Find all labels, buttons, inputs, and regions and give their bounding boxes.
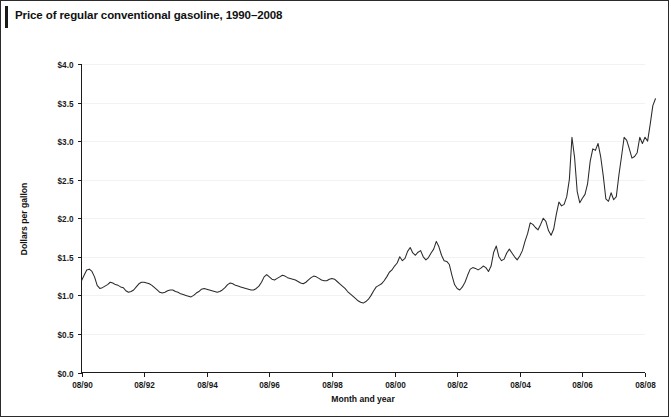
y-tick-label: $2.5 — [58, 177, 74, 186]
x-axis-title: Month and year — [331, 394, 395, 404]
price-series-line — [82, 99, 656, 303]
x-tick-label: 08/00 — [385, 381, 406, 390]
x-tick-label: 08/08 — [635, 381, 656, 390]
y-tick-label: $0.5 — [58, 331, 74, 340]
x-tick-label: 08/90 — [72, 381, 93, 390]
x-tick-label: 08/92 — [134, 381, 155, 390]
y-axis-title: Dollars per gallon — [19, 183, 29, 256]
y-tick-label: $3.5 — [58, 100, 74, 109]
y-tick-label: $1.0 — [58, 292, 74, 301]
line-chart-svg: $0.0$0.5$1.0$1.5$2.0$2.5$3.0$3.5$4.0 08/… — [1, 1, 670, 418]
x-tick-label: 08/94 — [197, 381, 218, 390]
x-tick-label: 08/96 — [259, 381, 280, 390]
y-axis-ticks-group: $0.0$0.5$1.0$1.5$2.0$2.5$3.0$3.5$4.0 — [58, 61, 82, 379]
y-tick-label: $2.0 — [58, 215, 74, 224]
y-tick-label: $0.0 — [58, 370, 74, 379]
gridlines-group — [82, 65, 646, 335]
x-tick-label: 08/98 — [322, 381, 343, 390]
y-tick-label: $3.0 — [58, 138, 74, 147]
x-tick-label: 08/02 — [447, 381, 468, 390]
x-tick-label: 08/04 — [510, 381, 531, 390]
y-tick-label: $4.0 — [58, 61, 74, 70]
y-tick-label: $1.5 — [58, 254, 74, 263]
plot-area: $0.0$0.5$1.0$1.5$2.0$2.5$3.0$3.5$4.0 08/… — [1, 1, 670, 418]
chart-figure: Price of regular conventional gasoline, … — [0, 0, 669, 417]
x-axis-ticks-group: 08/9008/9208/9408/9608/9808/0008/0208/04… — [72, 373, 656, 390]
x-tick-label: 08/06 — [572, 381, 593, 390]
